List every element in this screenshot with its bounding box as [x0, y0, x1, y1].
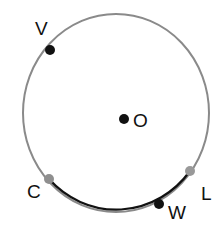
point-v-dot — [45, 45, 55, 55]
point-c: C — [27, 174, 54, 202]
point-w-dot — [154, 199, 164, 209]
point-v-label: V — [35, 18, 48, 39]
point-c-dot — [44, 174, 54, 184]
point-w-label: W — [168, 202, 186, 223]
circle-diagram: V O C L W — [0, 0, 224, 238]
point-l: L — [185, 166, 212, 204]
point-l-dot — [185, 166, 195, 176]
point-o-dot — [119, 114, 129, 124]
point-l-label: L — [201, 183, 212, 204]
point-o-center: O — [119, 110, 148, 131]
point-c-label: C — [27, 181, 41, 202]
point-w: W — [154, 199, 186, 223]
point-o-label: O — [133, 110, 148, 131]
